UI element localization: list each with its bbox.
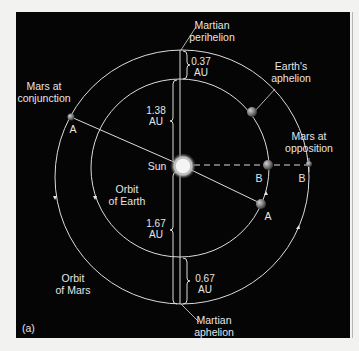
sun-label: Sun: [148, 160, 167, 172]
martian-perihelion-label-1: Martian: [194, 19, 229, 31]
sun-icon: [175, 158, 191, 174]
martian-perihelion-label-2: perihelion: [189, 31, 235, 43]
orbit-of-earth-label-2: of Earth: [109, 195, 146, 207]
earth-orbit-arrow-right: [264, 191, 268, 195]
orbit-of-mars-label-2: of Mars: [55, 284, 90, 296]
earth-aphelion-leader: [254, 89, 275, 112]
perihelion-gap-value: 0.37: [191, 56, 211, 67]
martian-aphelion-label-1: Martian: [196, 314, 231, 326]
aphelion-gap-value: 0.67: [195, 273, 215, 284]
mars-opposition-label-1: Mars at: [291, 130, 326, 142]
earth-aphelion-planet-icon: [247, 107, 257, 117]
mars-B-label: B: [298, 172, 305, 184]
sun-earth-distance-value: 1.38: [146, 105, 166, 116]
brace-0-37: [183, 51, 190, 79]
martian-aphelion-label-2: aphelion: [194, 326, 234, 338]
brace-0-67: [183, 258, 190, 304]
orbit-of-earth-label-1: Orbit: [116, 183, 139, 195]
earth-position-A-icon: [256, 199, 266, 209]
mars-A-label: A: [69, 123, 76, 135]
perihelion-gap-unit: AU: [194, 67, 208, 78]
mars-position-A-icon: [68, 114, 75, 121]
earth-A-label: A: [264, 210, 271, 222]
mars-opposition-label-2: opposition: [285, 142, 333, 154]
brace-1-67: [170, 172, 177, 304]
brace-1-38: [170, 80, 177, 164]
mars-position-B-icon: [306, 161, 312, 167]
earth-B-label: B: [255, 172, 262, 184]
sun-mars-distance-value: 1.67: [146, 218, 166, 229]
earth-position-B-icon: [263, 160, 273, 170]
mars-conjunction-label-2: conjunction: [17, 92, 70, 104]
aphelion-gap-unit: AU: [198, 284, 212, 295]
panel-label: (a): [22, 322, 35, 334]
orbit-of-mars-label-1: Orbit: [62, 272, 85, 284]
earths-aphelion-label-1: Earth's: [275, 60, 307, 72]
earths-aphelion-label-2: aphelion: [271, 72, 311, 84]
orbit-diagram: Martian perihelion 0.37 AU Earth's aphel…: [0, 0, 359, 351]
mars-conjunction-label-1: Mars at: [26, 80, 61, 92]
conjunction-line: [71, 117, 183, 166]
sun-mars-distance-unit: AU: [149, 229, 163, 240]
earth-A-line: [183, 166, 262, 204]
sun-earth-distance-unit: AU: [149, 116, 163, 127]
